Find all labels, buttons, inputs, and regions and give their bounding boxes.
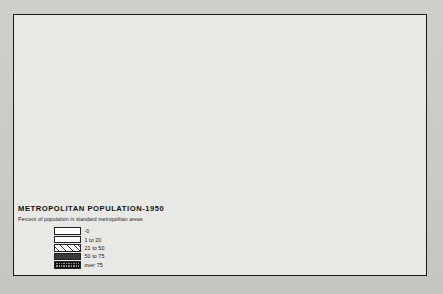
map-page: METROPOLITAN POPULATION-1950 Percent of … — [0, 0, 443, 294]
legend-label: -0 — [85, 228, 90, 234]
legend-swatch-fine-dot-stipple — [54, 236, 81, 244]
legend-item: over 75 — [54, 261, 208, 269]
legend-item: 50 to 75 — [54, 252, 208, 260]
legend-swatch-diagonal-hatch — [54, 244, 81, 252]
legend-label: over 75 — [85, 262, 103, 268]
map-subtitle: Percent of population in standard metrop… — [18, 216, 208, 222]
legend-item: 1 to 20 — [54, 235, 208, 243]
legend-item: -0 — [54, 227, 208, 235]
legend-item: 21 to 50 — [54, 244, 208, 252]
legend-swatch-dense-gray-stipple — [54, 253, 81, 261]
map-legend: METROPOLITAN POPULATION-1950 Percent of … — [18, 204, 208, 269]
map-title: METROPOLITAN POPULATION-1950 — [18, 204, 208, 213]
legend-swatch-dark-crosshatch — [54, 261, 81, 269]
legend-rows: -01 to 2021 to 5050 to 75over 75 — [54, 227, 208, 269]
legend-label: 50 to 75 — [85, 253, 105, 259]
legend-label: 21 to 50 — [85, 245, 105, 251]
legend-swatch-white-blank — [54, 227, 81, 235]
legend-label: 1 to 20 — [85, 237, 102, 243]
